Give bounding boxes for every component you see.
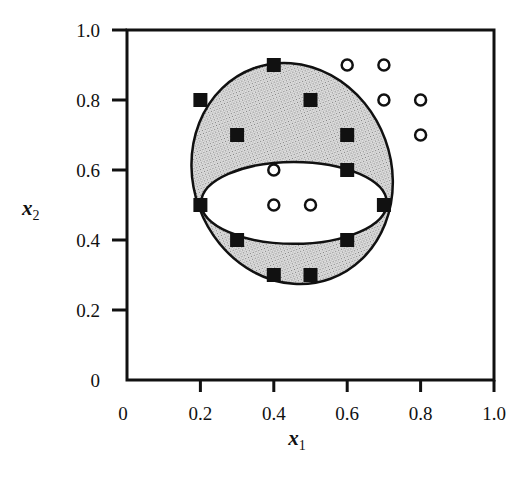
y-tick-label: 1.0 (76, 20, 100, 41)
decision-regions (161, 34, 424, 312)
circle-marker (378, 95, 389, 106)
square-marker (377, 198, 391, 212)
x-tick-label: 0 (118, 403, 128, 424)
circle-marker (342, 60, 353, 71)
square-marker (340, 128, 354, 142)
square-marker (230, 233, 244, 247)
scatter-chart: 00.20.40.60.81.000.20.40.60.81.0 x1 x2 (0, 0, 527, 478)
circle-marker (415, 95, 426, 106)
y-tick-label: 0.6 (76, 160, 100, 181)
square-marker (267, 268, 281, 282)
square-marker (340, 163, 354, 177)
circle-marker (305, 200, 316, 211)
x-tick-label: 0.8 (409, 403, 433, 424)
y-axis-label: x2 (21, 196, 40, 223)
inner-ellipse (201, 162, 387, 244)
y-tick-label: 0.4 (76, 230, 100, 251)
x-tick-label: 0.2 (189, 403, 213, 424)
x-tick-label: 0.4 (262, 403, 286, 424)
square-marker (193, 93, 207, 107)
x-tick-label: 0.6 (335, 403, 359, 424)
circle-marker (415, 130, 426, 141)
y-tick-label: 0 (91, 370, 101, 391)
x-axis-label: x1 (287, 426, 306, 453)
square-marker (230, 128, 244, 142)
circle-marker (268, 200, 279, 211)
x-tick-label: 1.0 (482, 403, 506, 424)
square-marker (340, 233, 354, 247)
square-marker (304, 93, 318, 107)
square-marker (193, 198, 207, 212)
square-marker (267, 58, 281, 72)
square-marker (304, 268, 318, 282)
y-tick-label: 0.2 (76, 300, 100, 321)
y-tick-label: 0.8 (76, 90, 100, 111)
circle-marker (268, 165, 279, 176)
circle-marker (378, 60, 389, 71)
